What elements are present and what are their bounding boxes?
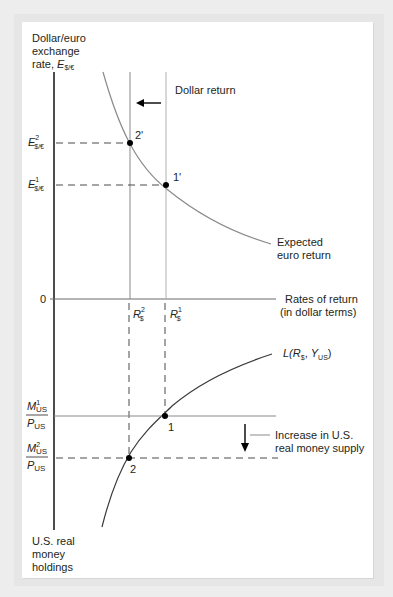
svg-text:PUS: PUS	[27, 417, 45, 431]
y-axis-label-line3: rate, E$/€	[32, 58, 74, 71]
liquidity-label: L(R$, YUS)	[283, 347, 332, 361]
e2-label: E2$/€	[28, 134, 44, 150]
money-axis-label-line3: holdings	[32, 561, 73, 573]
point-2	[126, 455, 132, 461]
e1-label: E1$/€	[28, 176, 44, 192]
y-axis-label-line2: exchange	[32, 45, 80, 57]
svg-text:PUS: PUS	[27, 459, 45, 473]
point-1-label: 1	[168, 421, 174, 433]
money-axis-label-line2: money	[32, 548, 66, 560]
y-axis-label-line1: Dollar/euro	[32, 32, 86, 44]
increase-label-line1: Increase in U.S.	[275, 429, 353, 441]
r2-label: R2$	[133, 306, 145, 322]
left-arrow-icon	[136, 99, 161, 107]
expected-euro-return-label-line2: euro return	[277, 249, 331, 261]
m2-over-p-label: M2US PUS	[26, 441, 48, 473]
liquidity-curve	[102, 354, 272, 527]
x-axis-label-line1: Rates of return	[285, 293, 358, 305]
exchange-rate-money-supply-diagram: Dollar/euro exchange rate, E$/€ 0 Rates …	[0, 0, 393, 597]
down-arrow-icon	[241, 424, 249, 452]
expected-euro-return-label-line1: Expected	[277, 236, 323, 248]
increase-label-line2: real money supply	[275, 442, 365, 454]
m1-over-p-label: M1US PUS	[26, 399, 48, 431]
point-1	[162, 413, 168, 419]
point-2-prime-label: 2'	[135, 129, 143, 141]
point-1-prime-label: 1'	[173, 171, 181, 183]
dollar-return-label: Dollar return	[175, 84, 236, 96]
point-2-prime	[127, 140, 133, 146]
r1-label: R1$	[170, 306, 182, 322]
expected-euro-return-curve	[103, 72, 271, 244]
svg-text:M2US: M2US	[27, 441, 47, 456]
point-1-prime	[163, 182, 169, 188]
svg-text:M1US: M1US	[27, 399, 47, 414]
x-axis-label-line2: (in dollar terms)	[280, 306, 356, 318]
money-axis-label-line1: U.S. real	[32, 535, 75, 547]
point-2-label: 2	[130, 463, 136, 475]
origin-label: 0	[40, 293, 46, 305]
